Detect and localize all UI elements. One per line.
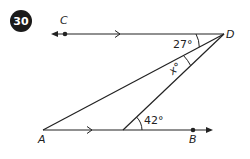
angle-label-27: 27° <box>173 38 193 51</box>
label-point-b: B <box>189 133 197 146</box>
line-ab <box>43 127 213 134</box>
point-b-dot <box>191 128 196 133</box>
angle-arc-27 <box>196 34 199 47</box>
problem-number-badge: 30 <box>10 10 32 32</box>
angle-arc-x <box>184 56 191 66</box>
angle-arc-42 <box>137 117 142 130</box>
geometry-diagram: 30 C D A B 27° x° 42° <box>0 0 250 159</box>
point-c-dot <box>63 32 68 37</box>
label-point-c: C <box>60 14 68 27</box>
angle-label-42: 42° <box>144 114 164 127</box>
line-cd <box>51 31 224 38</box>
arrowhead-left-icon <box>51 31 58 37</box>
arrowhead-right-icon <box>206 127 213 133</box>
label-point-d: D <box>226 28 234 41</box>
label-point-a: A <box>37 133 46 146</box>
problem-number: 30 <box>13 15 29 28</box>
segment-ad <box>43 34 224 130</box>
